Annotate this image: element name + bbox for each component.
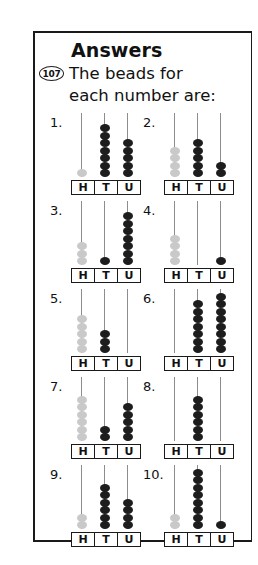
abacus-frame: HTU — [164, 289, 234, 371]
place-value-label: H — [165, 269, 188, 282]
abacus-item: 10.HTU — [143, 463, 239, 551]
bead-stack — [98, 484, 112, 529]
bead — [216, 300, 226, 308]
place-value-label: T — [95, 445, 118, 458]
bead — [100, 169, 110, 177]
bead — [123, 506, 133, 514]
intro-text: The beads for each number are: — [69, 63, 249, 107]
bead-stack — [191, 140, 205, 178]
place-value-label: T — [188, 357, 211, 370]
bead-stack — [75, 243, 89, 266]
bead-stack — [191, 469, 205, 529]
abacus-rod — [127, 289, 128, 353]
bead — [100, 491, 110, 499]
abacus-grid: 1.HTU2.HTU3.HTU4.HTU5.HTU6.HTU7.HTU8.HTU… — [35, 111, 254, 551]
abacus-rod — [197, 201, 198, 265]
abacus-item-number: 7. — [50, 379, 62, 394]
abacus-item: 1.HTU — [50, 111, 146, 199]
abacus-item-number: 5. — [50, 291, 62, 306]
place-value-label: U — [118, 357, 140, 370]
bead — [193, 345, 203, 353]
abacus-rod — [174, 289, 175, 353]
abacus-rod — [220, 377, 221, 441]
place-value-label: U — [211, 533, 233, 546]
abacus-rod — [81, 113, 82, 177]
place-value-label: H — [72, 269, 95, 282]
abacus-item: 9.HTU — [50, 463, 146, 551]
place-value-label: U — [118, 269, 140, 282]
bead-stack — [214, 522, 228, 530]
place-value-label-box: HTU — [71, 180, 141, 195]
place-value-label: T — [188, 445, 211, 458]
bead — [123, 418, 133, 426]
abacus-row: 5.HTU6.HTU — [35, 287, 254, 375]
bead — [123, 521, 133, 529]
bead — [193, 139, 203, 147]
place-value-label: T — [95, 269, 118, 282]
bead-stack — [214, 162, 228, 177]
bead-stack — [98, 426, 112, 441]
bead-stack — [98, 125, 112, 178]
answers-page: Answers 107 The beads for each number ar… — [0, 0, 258, 565]
place-value-label: H — [165, 445, 188, 458]
place-value-label: H — [72, 445, 95, 458]
bead — [170, 154, 180, 162]
bead-stack — [168, 514, 182, 529]
place-value-label: T — [188, 533, 211, 546]
abacus-frame: HTU — [71, 113, 141, 195]
place-value-label: H — [165, 181, 188, 194]
page-title: Answers — [71, 39, 162, 61]
bead — [77, 345, 87, 353]
bead — [100, 433, 110, 441]
bead — [123, 154, 133, 162]
bead-stack — [75, 316, 89, 354]
bead — [123, 403, 133, 411]
bead — [77, 242, 87, 250]
bead — [100, 506, 110, 514]
place-value-label: H — [72, 357, 95, 370]
bead — [123, 257, 133, 265]
place-value-label-box: HTU — [164, 356, 234, 371]
abacus-item-number: 10. — [143, 467, 164, 482]
bead-stack — [98, 258, 112, 266]
bead-stack — [121, 499, 135, 529]
intro-line-2: each number are: — [69, 85, 249, 107]
bead — [77, 315, 87, 323]
abacus-item-number: 4. — [143, 203, 155, 218]
bead — [77, 403, 87, 411]
bead — [170, 521, 180, 529]
abacus-item: 6.HTU — [143, 287, 239, 375]
bead — [123, 433, 133, 441]
abacus-item: 5.HTU — [50, 287, 146, 375]
abacus-item: 4.HTU — [143, 199, 239, 287]
place-value-label: T — [95, 357, 118, 370]
place-value-label-box: HTU — [71, 268, 141, 283]
bead — [193, 403, 203, 411]
bead — [193, 154, 203, 162]
bead — [77, 169, 87, 177]
bead — [193, 491, 203, 499]
place-value-label: U — [211, 269, 233, 282]
bead-stack — [191, 396, 205, 441]
place-value-label: T — [188, 269, 211, 282]
bead — [100, 139, 110, 147]
bead — [193, 476, 203, 484]
bead — [123, 242, 133, 250]
abacus-rod — [220, 201, 221, 265]
bead — [123, 139, 133, 147]
bead-stack — [168, 147, 182, 177]
bead — [216, 315, 226, 323]
abacus-frame: HTU — [164, 377, 234, 459]
bead — [77, 330, 87, 338]
bead-stack — [191, 301, 205, 354]
abacus-row: 3.HTU4.HTU — [35, 199, 254, 287]
bead — [216, 169, 226, 177]
intro-line-1: The beads for — [69, 63, 249, 85]
abacus-frame: HTU — [164, 201, 234, 283]
bead — [77, 418, 87, 426]
abacus-frame: HTU — [164, 465, 234, 547]
bead — [216, 521, 226, 529]
place-value-label: U — [118, 181, 140, 194]
bead — [216, 330, 226, 338]
bead — [216, 345, 226, 353]
